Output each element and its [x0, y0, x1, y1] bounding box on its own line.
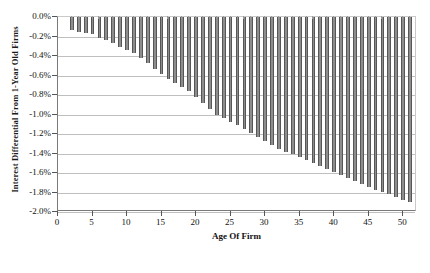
x-minor-tick-top: [92, 16, 93, 19]
x-tick-mark: [368, 211, 369, 216]
x-tick-label: 25: [215, 217, 245, 228]
y-tick-label: -0.2%: [5, 31, 51, 41]
bar: [394, 17, 398, 197]
x-minor-tick-top: [306, 16, 307, 19]
bar: [298, 17, 302, 157]
bar: [305, 17, 309, 160]
bar: [353, 17, 357, 181]
bar: [139, 17, 143, 58]
x-minor-tick-top: [209, 16, 210, 19]
x-minor-tick-top: [78, 16, 79, 19]
x-minor-tick-top: [216, 16, 217, 19]
x-minor-tick-top: [361, 16, 362, 19]
x-minor-tick-top: [119, 16, 120, 19]
x-minor-tick-top: [299, 16, 300, 19]
y-tick-label: -1.2%: [5, 128, 51, 138]
x-tick-mark: [402, 211, 403, 216]
bar: [91, 17, 95, 34]
gridline: [58, 212, 415, 213]
bar: [401, 17, 405, 200]
bar: [201, 17, 205, 103]
bar: [367, 17, 371, 187]
x-minor-tick-top: [98, 16, 99, 19]
x-tick-label: 0: [42, 217, 72, 228]
x-tick-mark: [57, 211, 58, 216]
y-tick-label: -0.8%: [5, 89, 51, 99]
bar: [360, 17, 364, 184]
gridline: [58, 193, 415, 194]
bar: [98, 17, 102, 38]
bar: [381, 17, 385, 192]
y-tick-mark: [52, 114, 57, 115]
x-minor-tick-top: [409, 16, 410, 19]
x-minor-tick-top: [85, 16, 86, 19]
bar: [277, 17, 281, 149]
x-minor-tick-top: [154, 16, 155, 19]
bar: [132, 17, 136, 53]
bar: [243, 17, 247, 129]
x-minor-tick-top: [223, 16, 224, 19]
y-tick-label: -1.0%: [5, 109, 51, 119]
x-tick-mark: [126, 211, 127, 216]
x-minor-tick-top: [71, 16, 72, 19]
x-minor-tick-top: [347, 16, 348, 19]
x-minor-tick-top: [112, 16, 113, 19]
y-tick-mark: [52, 75, 57, 76]
x-minor-tick-top: [395, 16, 396, 19]
x-minor-tick-top: [195, 16, 196, 19]
bar-chart-figure: Interest Differential From 1-Year Old Fi…: [0, 0, 430, 273]
y-tick-label: -1.6%: [5, 167, 51, 177]
x-minor-tick-top: [230, 16, 231, 19]
x-tick-label: 50: [387, 217, 417, 228]
x-minor-tick-top: [312, 16, 313, 19]
x-minor-tick-top: [174, 16, 175, 19]
bar: [125, 17, 129, 50]
x-tick-label: 5: [77, 217, 107, 228]
x-minor-tick-top: [243, 16, 244, 19]
x-minor-tick-top: [285, 16, 286, 19]
y-tick-label: -0.4%: [5, 50, 51, 60]
bar: [249, 17, 253, 133]
bar: [236, 17, 240, 125]
x-minor-tick-top: [126, 16, 127, 19]
x-minor-tick-top: [237, 16, 238, 19]
x-minor-tick-top: [161, 16, 162, 19]
plot-area: [57, 16, 416, 211]
bar: [77, 17, 81, 32]
x-tick-mark: [230, 211, 231, 216]
x-tick-label: 20: [180, 217, 210, 228]
bar: [229, 17, 233, 122]
bar: [180, 17, 184, 87]
bar: [408, 17, 412, 202]
bar: [160, 17, 164, 74]
bar: [208, 17, 212, 109]
bar: [173, 17, 177, 83]
x-minor-tick-top: [388, 16, 389, 19]
x-minor-tick-top: [354, 16, 355, 19]
plot-inner: [58, 17, 415, 210]
x-tick-mark: [299, 211, 300, 216]
x-minor-tick-top: [340, 16, 341, 19]
x-tick-mark: [195, 211, 196, 216]
bar: [312, 17, 316, 163]
bar: [325, 17, 329, 169]
y-tick-mark: [52, 133, 57, 134]
bar: [146, 17, 150, 63]
x-minor-tick-top: [181, 16, 182, 19]
y-tick-label: -1.8%: [5, 187, 51, 197]
x-minor-tick-top: [140, 16, 141, 19]
y-tick-mark: [52, 36, 57, 37]
bar: [387, 17, 391, 194]
x-tick-mark: [92, 211, 93, 216]
bar: [111, 17, 115, 43]
bar: [256, 17, 260, 137]
bar: [167, 17, 171, 79]
y-tick-mark: [52, 16, 57, 17]
x-minor-tick-top: [333, 16, 334, 19]
x-minor-tick-top: [368, 16, 369, 19]
x-minor-tick-top: [271, 16, 272, 19]
bar: [346, 17, 350, 178]
y-tick-mark: [52, 172, 57, 173]
x-minor-tick-top: [188, 16, 189, 19]
x-axis-title: Age Of Firm: [57, 231, 416, 241]
